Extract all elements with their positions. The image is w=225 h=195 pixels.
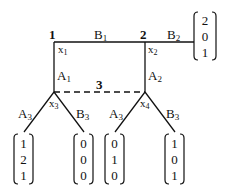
svg-text:x1: x1 [58, 43, 68, 57]
svg-text:1: 1 [171, 136, 178, 151]
svg-text:1: 1 [171, 168, 178, 183]
svg-text:2: 2 [202, 13, 209, 28]
payoff-vector-x3-a3: 1 2 1 [14, 134, 33, 184]
a1-label: A1 [57, 68, 71, 84]
node-2-label: 2 [140, 27, 147, 42]
x1-label: x1 [58, 43, 68, 57]
svg-text:0: 0 [80, 152, 87, 167]
svg-text:0: 0 [80, 136, 87, 151]
svg-text:1: 1 [111, 152, 118, 167]
a3-left-label: A3 [18, 106, 32, 122]
svg-text:0: 0 [111, 136, 118, 151]
svg-text:1: 1 [20, 168, 27, 183]
svg-text:x2: x2 [148, 43, 158, 57]
node-3-label: 3 [96, 77, 103, 92]
payoff-vector-b2: 2 0 1 [194, 12, 216, 60]
x3-label: x3 [49, 97, 59, 111]
x4-label: x4 [140, 97, 150, 111]
svg-text:0: 0 [202, 29, 209, 44]
svg-text:1: 1 [20, 136, 27, 151]
a3-right-label: A3 [109, 106, 123, 122]
svg-text:x4: x4 [140, 97, 150, 111]
b1-label: B1 [94, 27, 107, 43]
a2-label: A2 [148, 68, 162, 84]
payoff-vector-x4-a3: 0 1 0 [105, 134, 124, 184]
svg-text:2: 2 [20, 152, 27, 167]
svg-text:0: 0 [111, 168, 118, 183]
b3-left-label: B3 [76, 106, 90, 122]
b3-right-label: B3 [166, 106, 180, 122]
svg-text:0: 0 [171, 152, 178, 167]
payoff-vector-x4-b3: 1 0 1 [165, 134, 184, 184]
node-1-label: 1 [49, 27, 56, 42]
b2-label: B2 [167, 27, 180, 43]
svg-text:x3: x3 [49, 97, 59, 111]
x2-label: x2 [148, 43, 158, 57]
game-tree-diagram: 1 2 3 x1 x2 x3 x4 B1 B2 A1 A2 A3 B3 A3 B… [0, 0, 225, 195]
payoff-vector-x3-b3: 0 0 0 [74, 134, 93, 184]
svg-text:1: 1 [202, 45, 209, 60]
svg-text:0: 0 [80, 168, 87, 183]
